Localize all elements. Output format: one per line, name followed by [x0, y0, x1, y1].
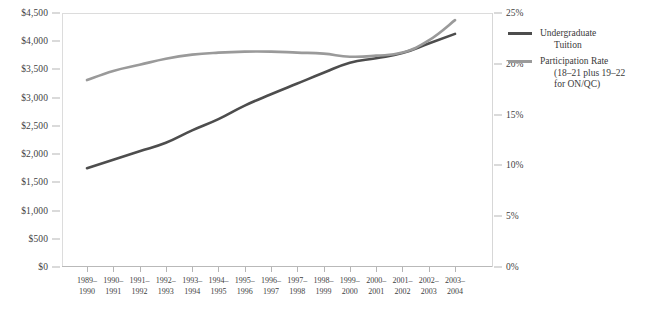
category-axis-tick-mark: [402, 267, 403, 272]
category-axis-tick-mark: [218, 267, 219, 272]
category-axis-tick-label: 2001–2002: [392, 275, 412, 297]
left-axis-tick-label: $4,500: [21, 8, 48, 18]
chart-legend: UndergraduateTuitionParticipation Rate(1…: [508, 28, 648, 96]
right-axis-tick-mark: [494, 267, 502, 268]
category-axis-tick-label: 1997–1998: [287, 275, 307, 297]
category-axis-tick-label: 1992–1993: [156, 275, 176, 297]
plot-left-axis-line: [62, 13, 63, 267]
right-axis-tick-label: 25%: [506, 8, 523, 18]
left-axis-tick-label: $4,000: [21, 36, 48, 46]
category-axis-tick-mark: [324, 267, 325, 272]
category-axis-tick-mark: [245, 267, 246, 272]
left-axis-tick-label: $1,500: [21, 177, 48, 187]
plot-top-border: [62, 13, 492, 14]
category-axis-tick-label: 1989–1990: [77, 275, 97, 297]
category-axis-tick-mark: [87, 267, 88, 272]
right-axis-tick-mark: [494, 165, 502, 166]
category-axis-tick-mark: [376, 267, 377, 272]
left-axis-tick-mark: [52, 97, 60, 98]
category-axis-tick-label: 2003–2004: [445, 275, 465, 297]
legend-item-label: Participation Rate(18–21 plus 19–22for O…: [540, 56, 648, 91]
category-axis-tick-label: 1998–1999: [314, 275, 334, 297]
left-axis-tick-label: $3,500: [21, 64, 48, 74]
category-axis-tick-label: 1990–1991: [103, 275, 123, 297]
left-axis-tick-mark: [52, 154, 60, 155]
left-axis-tick-mark: [52, 41, 60, 42]
category-axis-tick-mark: [350, 267, 351, 272]
left-axis-tick-mark: [52, 182, 60, 183]
right-axis-tick-label: 5%: [506, 211, 519, 221]
left-axis-tick-mark: [52, 13, 60, 14]
left-axis-tick-mark: [52, 238, 60, 239]
right-axis-tick-label: 15%: [506, 110, 523, 120]
left-axis-tick-mark: [52, 125, 60, 126]
category-axis-tick-label: 1994–1995: [208, 275, 228, 297]
category-axis-tick-label: 1996–1997: [261, 275, 281, 297]
right-axis-tick-mark: [494, 216, 502, 217]
category-axis-tick-mark: [455, 267, 456, 272]
category-axis-tick-label: 2000–2001: [366, 275, 386, 297]
category-axis-tick-mark: [166, 267, 167, 272]
legend-item-label: UndergraduateTuition: [540, 28, 648, 51]
category-axis-tick-mark: [429, 267, 430, 272]
category-axis-tick-label: 1991–1992: [130, 275, 150, 297]
right-axis-tick-label: 10%: [506, 160, 523, 170]
left-axis-tick-mark: [52, 69, 60, 70]
category-axis-tick-mark: [113, 267, 114, 272]
plot-area: [62, 13, 492, 267]
legend-color-swatch: [508, 32, 532, 35]
right-axis-tick-mark: [494, 63, 502, 64]
category-axis-tick-mark: [297, 267, 298, 272]
legend-item[interactable]: Participation Rate(18–21 plus 19–22for O…: [508, 56, 648, 91]
category-axis-tick-label: 1995–1996: [235, 275, 255, 297]
category-axis-tick-label: 1999–2000: [340, 275, 360, 297]
left-axis-tick-label: $0: [38, 262, 48, 272]
left-axis-tick-mark: [52, 210, 60, 211]
right-axis-tick-mark: [494, 13, 502, 14]
left-axis-tick-label: $2,500: [21, 121, 48, 131]
left-value-axis: $0$500$1,000$1,500$2,000$2,500$3,000$3,5…: [0, 13, 62, 267]
category-axis-tick-mark: [140, 267, 141, 272]
right-axis-tick-mark: [494, 114, 502, 115]
category-axis-tick-label: 1993–1994: [182, 275, 202, 297]
left-axis-tick-label: $500: [29, 234, 48, 244]
left-axis-tick-label: $2,000: [21, 149, 48, 159]
left-axis-tick-label: $3,000: [21, 93, 48, 103]
left-axis-tick-label: $1,000: [21, 206, 48, 216]
category-axis-tick-mark: [271, 267, 272, 272]
left-axis-tick-mark: [52, 267, 60, 268]
chart-root: $0$500$1,000$1,500$2,000$2,500$3,000$3,5…: [0, 0, 653, 318]
category-axis: 1989–19901990–19911991–19921992–19931993…: [62, 267, 492, 315]
legend-item[interactable]: UndergraduateTuition: [508, 28, 648, 51]
legend-color-swatch: [508, 60, 532, 63]
category-axis-tick-mark: [192, 267, 193, 272]
category-axis-tick-label: 2002–2003: [419, 275, 439, 297]
right-axis-tick-label: 0%: [506, 262, 519, 272]
